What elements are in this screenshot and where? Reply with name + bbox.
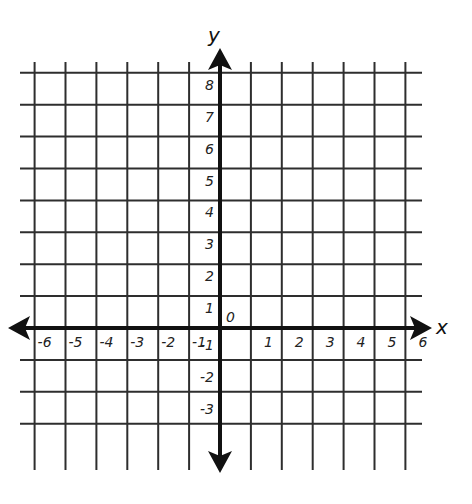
y-tick-label: 2 — [205, 268, 214, 284]
y-tick-label: 6 — [205, 141, 214, 157]
x-tick-label: 2 — [295, 334, 304, 350]
coordinate-plane: -6-5-4-3-2-112345687654321-1-2-3 x y 0 — [0, 0, 472, 504]
y-tick-label: 7 — [205, 109, 214, 125]
y-tick-label: -2 — [200, 369, 214, 385]
y-tick-label: 3 — [205, 236, 214, 252]
y-tick-label: -3 — [200, 401, 214, 417]
x-tick-label: 4 — [357, 334, 366, 350]
x-tick-label: -3 — [130, 334, 144, 350]
y-tick-label: 4 — [205, 204, 214, 220]
origin-label: 0 — [226, 309, 235, 325]
x-tick-label: -6 — [38, 334, 52, 350]
y-tick-label: 8 — [205, 77, 214, 93]
axes — [8, 48, 432, 473]
x-tick-label: 5 — [388, 334, 397, 350]
x-tick-label: -2 — [161, 334, 175, 350]
x-axis-name: x — [435, 315, 448, 339]
y-axis-name: y — [207, 23, 221, 47]
x-tick-label: -4 — [99, 334, 113, 350]
y-tick-label: 5 — [205, 173, 214, 189]
x-tick-label: 3 — [326, 334, 335, 350]
y-tick-label: 1 — [205, 300, 214, 316]
x-tick-label: 6 — [418, 334, 427, 350]
x-tick-label: -5 — [69, 334, 83, 350]
y-tick-label: -1 — [200, 337, 214, 353]
x-tick-label: 1 — [264, 334, 273, 350]
